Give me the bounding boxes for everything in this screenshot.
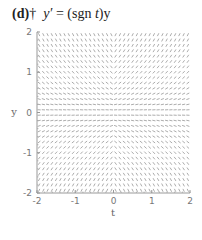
slope-segment bbox=[183, 66, 185, 68]
slope-segment bbox=[51, 71, 53, 73]
slope-segment bbox=[110, 99, 113, 100]
slope-segment bbox=[68, 168, 70, 171]
slope-segment bbox=[187, 88, 190, 90]
slope-segment bbox=[166, 49, 168, 52]
slope-segment bbox=[118, 104, 121, 105]
slope-segment bbox=[51, 152, 53, 154]
slope-segment bbox=[63, 141, 66, 143]
slope-segment bbox=[93, 136, 96, 138]
slope-segment bbox=[38, 49, 40, 52]
slope-segment bbox=[174, 141, 177, 143]
slope-segment bbox=[170, 49, 172, 52]
slope-segment bbox=[123, 184, 124, 187]
slope-segment bbox=[161, 162, 163, 165]
slope-segment bbox=[98, 49, 100, 52]
slope-segment bbox=[136, 157, 138, 159]
slope-segment bbox=[68, 77, 70, 79]
slope-segment bbox=[162, 49, 164, 52]
slope-segment bbox=[114, 99, 117, 100]
slope-segment bbox=[77, 189, 78, 192]
slope-segment bbox=[55, 131, 58, 132]
slope-segment bbox=[144, 71, 146, 73]
slope-segment bbox=[55, 173, 57, 176]
slope-segment bbox=[127, 120, 130, 121]
slope-segment bbox=[42, 66, 44, 68]
slope-segment bbox=[157, 33, 158, 36]
slope-segment bbox=[183, 184, 184, 187]
slope-segment bbox=[55, 157, 57, 159]
slope-segment bbox=[89, 55, 91, 58]
slope-segment bbox=[174, 60, 176, 63]
slope-segment bbox=[106, 184, 107, 187]
slope-segment bbox=[144, 141, 147, 143]
slope-segment bbox=[50, 93, 53, 94]
slope-segment bbox=[174, 136, 177, 138]
slope-segment bbox=[153, 55, 155, 58]
slope-segment bbox=[85, 157, 87, 159]
slope-segment bbox=[131, 99, 134, 100]
slope-segment bbox=[136, 66, 138, 68]
slope-segment bbox=[144, 136, 147, 138]
slope-segment bbox=[51, 189, 52, 192]
slope-segment bbox=[166, 39, 167, 42]
slope-segment bbox=[93, 146, 95, 148]
slope-segment bbox=[59, 152, 61, 154]
slope-segment bbox=[101, 120, 104, 121]
slope-segment bbox=[38, 162, 40, 165]
slope-segment bbox=[106, 157, 108, 159]
slope-segment bbox=[132, 184, 133, 187]
slope-segment bbox=[42, 77, 44, 79]
slope-segment bbox=[128, 39, 129, 42]
slope-segment bbox=[165, 88, 168, 90]
slope-segment bbox=[81, 55, 83, 58]
slope-segment bbox=[132, 157, 134, 159]
slope-segment bbox=[59, 146, 61, 148]
slope-segment bbox=[170, 146, 172, 148]
slope-segment bbox=[157, 60, 159, 63]
slope-segment bbox=[72, 93, 75, 94]
slope-segment bbox=[89, 125, 92, 126]
slope-segment bbox=[149, 178, 151, 181]
slope-segment bbox=[76, 146, 78, 148]
slope-segment bbox=[59, 168, 61, 171]
slope-segment bbox=[115, 44, 117, 47]
slope-segment bbox=[51, 178, 53, 181]
slope-segment bbox=[178, 93, 181, 94]
slope-segment bbox=[183, 55, 185, 58]
slope-segment bbox=[76, 55, 78, 58]
slope-segment bbox=[157, 93, 160, 94]
slope-segment bbox=[119, 141, 122, 143]
slope-segment bbox=[149, 49, 151, 52]
slope-segment bbox=[132, 33, 133, 36]
x-tick-label: 1 bbox=[149, 196, 155, 206]
slope-segment bbox=[136, 71, 138, 73]
slope-segment bbox=[115, 157, 117, 159]
slope-segment bbox=[89, 178, 91, 181]
slope-segment bbox=[47, 184, 48, 187]
slope-segment bbox=[68, 66, 70, 68]
slope-segment bbox=[42, 55, 44, 58]
slope-segment bbox=[131, 125, 134, 126]
slope-segment bbox=[123, 33, 124, 36]
slope-segment bbox=[106, 71, 108, 73]
slope-segment bbox=[94, 173, 96, 176]
slope-segment bbox=[166, 168, 168, 171]
slope-segment bbox=[123, 157, 125, 159]
slope-segment bbox=[144, 93, 147, 94]
slope-segment bbox=[152, 99, 155, 100]
slope-segment bbox=[59, 93, 62, 94]
slope-segment bbox=[153, 49, 155, 52]
slope-segment bbox=[186, 93, 189, 94]
slope-segment bbox=[144, 77, 146, 79]
slope-segment bbox=[123, 136, 126, 138]
slope-segment bbox=[128, 189, 129, 192]
slope-segment bbox=[46, 125, 49, 126]
slope-segment bbox=[106, 125, 109, 126]
slope-segment bbox=[166, 55, 168, 58]
slope-segment bbox=[80, 93, 83, 94]
slope-segment bbox=[128, 184, 129, 187]
slope-segment bbox=[46, 120, 49, 121]
slope-segment bbox=[85, 162, 87, 165]
slope-segment bbox=[102, 162, 104, 165]
slope-segment bbox=[89, 146, 91, 148]
